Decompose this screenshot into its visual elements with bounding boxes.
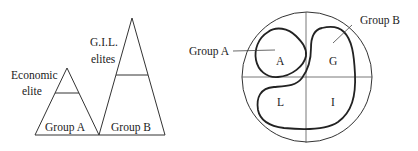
- group-a-leader-line: [233, 50, 275, 51]
- diagram-canvas: G.I.L. elites Economic elite Group A Gro…: [0, 0, 418, 151]
- label-economic-elite: elite: [22, 85, 42, 97]
- label-group-a-circle: Group A: [189, 45, 230, 58]
- label-group-a-triangle: Group A: [45, 121, 86, 134]
- agil-circle-diagram: [242, 12, 372, 143]
- group-a-region: [256, 29, 307, 78]
- label-gil-elites: elites: [91, 53, 116, 65]
- label-gil: G.I.L.: [90, 36, 118, 48]
- label-economic: Economic: [11, 69, 58, 81]
- quadrant-label-a: A: [276, 55, 285, 67]
- label-group-b-triangle: Group B: [111, 121, 151, 134]
- quadrant-label-i: I: [331, 96, 335, 108]
- label-group-b-circle: Group B: [360, 14, 400, 27]
- group-b-callout: Group B: [333, 14, 400, 43]
- quadrant-label-l: L: [277, 96, 284, 108]
- quadrant-label-g: G: [329, 55, 337, 67]
- group-a-callout: Group A: [189, 45, 275, 58]
